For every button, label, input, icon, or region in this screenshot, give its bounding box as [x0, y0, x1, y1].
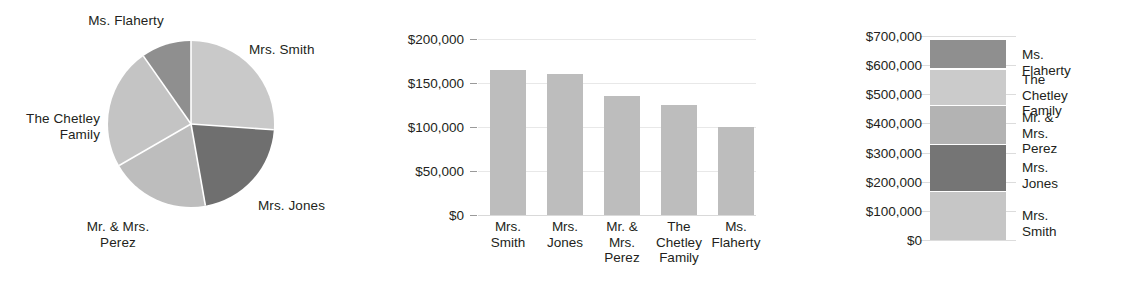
- stack-segment-the-chetley-family: [930, 70, 1006, 106]
- stack-gridline-0: [920, 240, 1016, 241]
- pie-chart-graphic: [107, 40, 275, 208]
- bar-tick-0: [470, 215, 477, 216]
- stack-segment-mrs-smith: [930, 192, 1006, 240]
- pie-svg: [107, 40, 275, 208]
- bar-ylabel-150000: $150,000: [408, 76, 464, 91]
- stack-ylabel-0: $0: [907, 233, 922, 248]
- bar-gridline-0: [478, 215, 756, 216]
- stack-ylabel-600000: $600,000: [866, 58, 922, 73]
- stack-ylabel-700000: $700,000: [866, 29, 922, 44]
- bar-ylabel-100000: $100,000: [408, 120, 464, 135]
- stack-ylabel-500000: $500,000: [866, 87, 922, 102]
- figure-root: Ms. Flaherty Mrs. Smith The Chetley Fami…: [0, 0, 1145, 284]
- bar-tick-50000: [470, 171, 477, 172]
- pie-label-mrs-smith: Mrs. Smith: [249, 42, 369, 58]
- stack-segment-mrs-jones: [930, 145, 1006, 192]
- bar-ylabel-50000: $50,000: [415, 164, 464, 179]
- bar-tick-200000: [470, 39, 477, 40]
- stacked-bar-chart-panel: $700,000 $600,000 $500,000 $400,000 $300…: [822, 0, 1145, 284]
- stack-ylabel-200000: $200,000: [866, 174, 922, 189]
- stack-ylabel-100000: $100,000: [866, 203, 922, 218]
- pie-label-mr-mrs-perez: Mr. & Mrs. Perez: [60, 219, 176, 250]
- stack-ylabel-300000: $300,000: [866, 145, 922, 160]
- stack-segment-ms-flaherty: [930, 40, 1006, 69]
- bar-mrs-jones: [547, 74, 583, 215]
- stack-ylabel-400000: $400,000: [866, 116, 922, 131]
- pie-label-mrs-jones: Mrs. Jones: [258, 198, 378, 214]
- pie-label-the-chetley-family: The Chetley Family: [0, 111, 100, 142]
- bar-ylabel-0: $0: [449, 208, 464, 223]
- bar-tick-150000: [470, 83, 477, 84]
- stack-legend-mrs-jones: Mrs. Jones: [1022, 160, 1058, 191]
- bar-ms-flaherty: [718, 127, 754, 215]
- bar-mrs-smith: [490, 70, 526, 215]
- stack-legend-mr-mrs-perez: Mr. & Mrs. Perez: [1022, 110, 1057, 157]
- pie-chart-panel: Ms. Flaherty Mrs. Smith The Chetley Fami…: [0, 0, 382, 284]
- pie-label-ms-flaherty: Ms. Flaherty: [66, 13, 186, 29]
- stack-legend-mrs-smith: Mrs. Smith: [1022, 208, 1057, 239]
- stack-gridline-700000: [920, 36, 1016, 37]
- bar-chart-plot-area: $200,000 $150,000 $100,000 $50,000 $0 Mr…: [478, 39, 756, 215]
- bar-ylabel-200000: $200,000: [408, 32, 464, 47]
- bar-mr-mrs-perez: [604, 96, 640, 215]
- bar-gridline-200000: [478, 39, 756, 40]
- bar-chart-panel: $200,000 $150,000 $100,000 $50,000 $0 Mr…: [382, 0, 822, 284]
- bar-tick-100000: [470, 127, 477, 128]
- stacked-bar-plot-area: $700,000 $600,000 $500,000 $400,000 $300…: [930, 36, 1006, 240]
- stack-segment-mr-mrs-perez: [930, 106, 1006, 145]
- bar-the-chetley-family: [661, 105, 697, 215]
- bar-xlabel-ms-flaherty: Ms. Flaherty: [703, 219, 769, 250]
